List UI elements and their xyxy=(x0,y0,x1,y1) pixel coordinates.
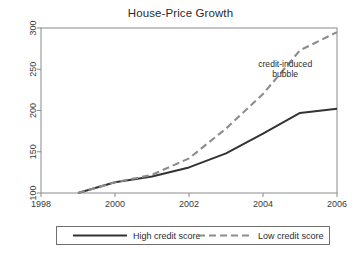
x-axis-tick-labels: 19982000200220042006 xyxy=(31,199,347,209)
series-line-low-credit xyxy=(78,32,337,193)
chart-legend: High credit scoreLow credit score xyxy=(57,227,330,245)
x-axis-tick-label: 2006 xyxy=(327,199,347,209)
x-axis-tick-label: 2000 xyxy=(105,199,125,209)
x-axis-tick-label: 2004 xyxy=(253,199,273,209)
legend-label-high-credit[interactable]: High credit score xyxy=(133,231,201,241)
y-axis-tick-labels: 100150200250300 xyxy=(28,20,38,200)
series-line-high-credit xyxy=(78,109,337,193)
x-axis-ticks xyxy=(41,193,337,197)
legend-label-low-credit[interactable]: Low credit score xyxy=(258,231,324,241)
x-axis-tick-label: 2002 xyxy=(179,199,199,209)
annotation-line: credit-induced xyxy=(258,59,312,69)
data-series-group xyxy=(78,32,337,193)
x-axis-tick-label: 1998 xyxy=(31,199,51,209)
y-axis-tick-label: 200 xyxy=(28,103,38,118)
y-axis-tick-label: 250 xyxy=(28,62,38,77)
annotation-line: bubble xyxy=(272,69,298,79)
house-price-growth-figure: House-Price Growth 100150200250300 19982… xyxy=(0,0,361,255)
y-axis-tick-label: 300 xyxy=(28,20,38,35)
chart-plot-area: 100150200250300 19982000200220042006 cre… xyxy=(0,0,361,255)
y-axis-tick-label: 150 xyxy=(28,144,38,159)
chart-annotation: credit-inducedbubble xyxy=(258,59,312,79)
